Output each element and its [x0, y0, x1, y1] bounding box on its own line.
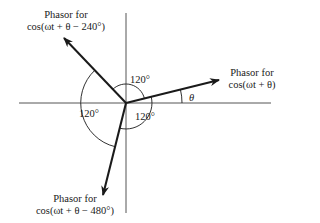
label-phasor-0: Phasor for cos(ωt + θ) [221, 67, 282, 91]
label-phasor-240-line2: cos(ωt + θ − 240°) [24, 21, 108, 33]
angle-arc-top [113, 84, 145, 98]
angle-label-theta: θ [189, 92, 194, 103]
angle-label-top: 120° [130, 74, 150, 85]
label-phasor-0-line2: cos(ωt + θ) [221, 79, 282, 91]
angle-label-left: 120° [79, 108, 99, 119]
label-phasor-480: Phasor for cos(ωt + θ − 480°) [33, 193, 117, 217]
phasor-arrow-cos-wt-theta-240 [64, 38, 126, 103]
theta-arc [180, 89, 182, 103]
phasor-arrow-cos-wt-theta-480 [103, 103, 126, 195]
label-phasor-480-line2: cos(ωt + θ − 480°) [33, 205, 117, 217]
label-phasor-240-line1: Phasor for [24, 9, 108, 21]
label-phasor-0-line1: Phasor for [221, 67, 282, 79]
label-phasor-480-line1: Phasor for [33, 193, 117, 205]
angle-label-bottom: 120° [135, 111, 155, 122]
label-phasor-240: Phasor for cos(ωt + θ − 240°) [24, 9, 108, 33]
